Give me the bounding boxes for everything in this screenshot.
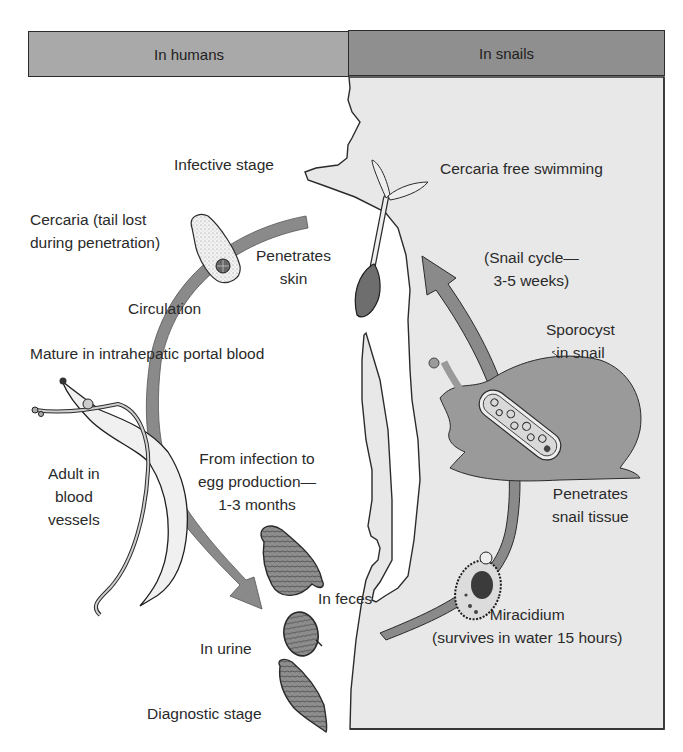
label-penetrates-snail-line1: Penetrates [552,482,629,505]
label-mature-portal-blood: Mature in intrahepatic portal blood [30,342,264,365]
label-adult-line3: vessels [48,508,100,531]
label-snail-cycle-line1: (Snail cycle— [484,246,579,269]
header-in-humans: In humans [28,31,349,77]
label-sporocyst: Sporocyst in snail [546,318,615,364]
egg-diagnostic [279,659,327,732]
label-adult-line2: blood [48,485,100,508]
label-infection-to-egg-line2: egg production— [198,470,316,493]
label-in-urine: In urine [200,637,252,660]
label-snail-cycle-line2: 3-5 weeks) [484,269,579,292]
label-in-feces: In feces [318,587,372,610]
label-infection-to-egg-line3: 1-3 months [198,493,316,516]
label-adult-line1: Adult in [48,462,100,485]
label-cercaria-tail-lost: Cercaria (tail lost during penetration) [30,208,160,254]
label-miracidium: Miracidium (survives in water 15 hours) [432,603,622,649]
label-infective-stage: Infective stage [174,153,274,176]
label-infection-to-egg: From infection to egg production— 1-3 mo… [198,447,316,516]
label-sporocyst-line2: in snail [546,341,615,364]
label-snail-cycle: (Snail cycle— 3-5 weeks) [484,246,579,292]
schistosoma-life-cycle-diagram: In humans In snails Infective stage Cerc… [0,0,683,752]
label-penetrates-skin: Penetrates skin [256,244,331,290]
label-infection-to-egg-line1: From infection to [198,447,316,470]
label-cercaria-free-swimming: Cercaria free swimming [440,157,603,180]
label-cercaria-tail-lost-line2: during penetration) [30,231,160,254]
label-adult-blood-vessels: Adult in blood vessels [48,462,100,531]
header-in-humans-label: In humans [154,46,224,63]
label-penetrates-snail-line2: snail tissue [552,505,629,528]
egg-urine [280,609,322,658]
header-in-snails: In snails [348,30,665,76]
label-diagnostic-stage: Diagnostic stage [147,702,262,725]
label-penetrates-snail-tissue: Penetrates snail tissue [552,482,629,528]
label-miracidium-line2: (survives in water 15 hours) [432,626,622,649]
label-circulation: Circulation [128,297,201,320]
label-sporocyst-line1: Sporocyst [546,318,615,341]
label-penetrates-skin-line1: Penetrates [256,244,331,267]
label-miracidium-line1: Miracidium [432,603,622,626]
label-penetrates-skin-line2: skin [256,267,331,290]
label-cercaria-tail-lost-line1: Cercaria (tail lost [30,208,160,231]
egg-feces [261,526,323,595]
header-in-snails-label: In snails [479,45,534,62]
